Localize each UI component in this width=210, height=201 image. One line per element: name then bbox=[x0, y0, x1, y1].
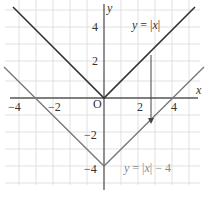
x-axis-label: x bbox=[195, 83, 202, 97]
label-abs-x: y = |x| bbox=[131, 18, 160, 32]
x-tick--2: −2 bbox=[48, 100, 61, 114]
x-tick-4: 4 bbox=[171, 100, 177, 114]
y-tick--2: −2 bbox=[84, 128, 97, 142]
y-tick--4: −4 bbox=[84, 162, 97, 176]
x-tick--4: −4 bbox=[8, 100, 21, 114]
y-tick-4: 4 bbox=[92, 20, 98, 34]
label-abs-x-minus-4: y = |x| − 4 bbox=[123, 161, 171, 175]
graph: y x O −4 −2 2 4 4 2 −2 −4 y = |x| y = |x… bbox=[0, 0, 210, 201]
origin-label: O bbox=[93, 97, 102, 111]
x-tick-2: 2 bbox=[137, 100, 143, 114]
y-axis-label: y bbox=[106, 1, 113, 15]
y-tick-2: 2 bbox=[92, 54, 98, 68]
